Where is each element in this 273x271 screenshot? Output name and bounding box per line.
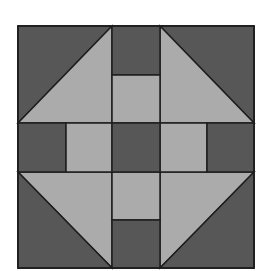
top-left-corner bbox=[18, 26, 112, 123]
left-bar bbox=[18, 123, 112, 172]
bottom-right-corner bbox=[160, 172, 254, 268]
right-bar bbox=[160, 123, 254, 172]
top-right-corner bbox=[160, 26, 254, 123]
quilt-block bbox=[0, 0, 273, 271]
bottom-bar bbox=[112, 172, 160, 268]
top-bar bbox=[112, 26, 160, 123]
bottom-left-corner bbox=[18, 172, 112, 268]
center-square bbox=[112, 123, 160, 172]
